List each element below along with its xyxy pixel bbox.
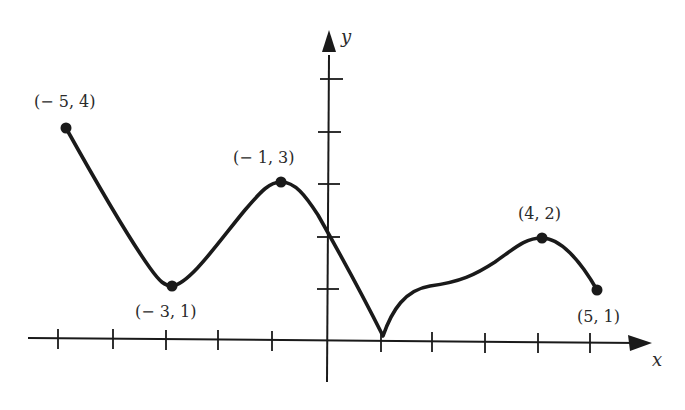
point-label: (5, 1) [577,307,620,326]
x-axis-arrow-icon [628,335,652,351]
y-axis [327,55,329,382]
point-label: (4, 2) [518,204,561,223]
point-marker [276,177,287,188]
graph-canvas: (− 5, 4) (− 3, 1) (− 1, 3) (4, 2) (5, 1)… [0,0,685,410]
point-label: (− 5, 4) [34,92,96,111]
y-axis-ticks [317,79,343,289]
y-axis-arrow-icon [322,30,336,52]
point-marker [592,285,603,296]
x-axis [28,338,640,343]
point-label: (− 1, 3) [233,148,295,167]
point-marker [167,281,178,292]
point-label: (− 3, 1) [135,302,197,321]
x-axis-label: x [652,349,662,370]
y-axis-label: y [340,26,352,47]
point-marker [537,233,548,244]
function-graph: (− 5, 4) (− 3, 1) (− 1, 3) (4, 2) (5, 1)… [0,0,685,410]
point-marker [61,123,72,134]
